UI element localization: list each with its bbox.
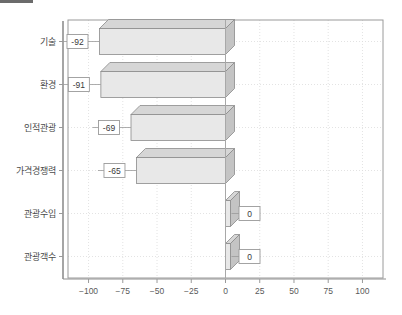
x-tick-label: 75 [323,286,333,296]
bar-top-face [101,63,235,72]
bar-3d [131,106,235,141]
bar-top-face [131,106,235,115]
x-tick-label: 100 [355,286,369,296]
category-labels: 기술환경인적관광가격경쟁력관광수입관광객수 [16,37,56,262]
category-label: 환경 [40,79,56,90]
chart-canvas: 기술환경인적관광가격경쟁력관광수입관광객수 −100−75−50−2502550… [0,0,402,315]
bar-front-face [226,244,231,270]
bar-chart: 기술환경인적관광가격경쟁력관광수입관광객수 −100−75−50−2502550… [0,0,402,315]
bar-front-face [131,115,226,141]
value-label-text: -91 [73,80,86,90]
value-label-callout: -65 [98,164,136,178]
value-label-callout: -92 [61,35,100,49]
x-tick-label: −75 [116,286,131,296]
category-label: 관광객수 [24,251,56,262]
bar-top-face [136,149,234,158]
bar-3d [101,63,235,98]
value-label-text: 0 [247,209,252,219]
bar-front-face [136,158,225,184]
value-label-text: -65 [108,166,121,176]
x-tick-label: 25 [255,286,265,296]
value-label-text: -69 [103,123,116,133]
x-tick-label: −50 [150,286,165,296]
bar-3d [226,235,240,270]
category-label: 기술 [40,37,56,47]
category-label: 관광수입 [24,208,56,219]
x-tick-label: 0 [223,286,228,296]
value-label-callout: -91 [62,78,101,92]
category-label: 가격경쟁력 [16,165,56,176]
x-axis-tick-labels: −100−75−50−250255075100 [79,286,370,296]
x-tick-label: −100 [79,286,98,296]
value-label-text: -92 [71,37,84,47]
bar-front-face [226,201,231,227]
bar-front-face [101,72,226,98]
category-label: 인적관광 [24,122,56,133]
value-label-callout: -69 [93,121,132,135]
bar-3d [136,149,234,184]
bars-layer [100,20,240,270]
x-tick-label: −25 [184,286,199,296]
bar-top-face [100,20,235,29]
x-tick-label: 50 [289,286,299,296]
bar-front-face [100,29,226,55]
bar-3d [100,20,235,55]
bar-3d [226,192,240,227]
value-label-text: 0 [247,252,252,262]
